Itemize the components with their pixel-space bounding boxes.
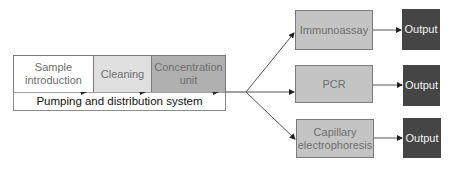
output-2: Output (403, 65, 440, 106)
stage-label: Sample introduction (24, 61, 84, 87)
stage-label: Cleaning (101, 68, 144, 81)
output-label: Output (404, 23, 437, 36)
method-label: Capillary electrophoresis (297, 126, 373, 152)
method-immunoassay: Immunoassay (295, 10, 373, 50)
output-1: Output (402, 9, 440, 50)
method-pcr: PCR (295, 65, 373, 103)
base-label: Pumping and distribution system (36, 95, 202, 108)
output-label: Output (405, 79, 438, 92)
output-3: Output (403, 118, 441, 158)
method-label: PCR (322, 78, 345, 91)
output-label: Output (405, 132, 438, 145)
method-capillary-electrophoresis: Capillary electrophoresis (296, 119, 374, 158)
pumping-distribution-system: Pumping and distribution system (14, 93, 225, 110)
stage-cleaning: Cleaning (93, 55, 152, 92)
method-label: Immunoassay (300, 24, 368, 37)
stage-concentration-unit: Concentration unit (151, 55, 226, 92)
stage-sample-introduction: Sample introduction (13, 55, 94, 92)
stage-label: Concentration unit (154, 61, 224, 87)
